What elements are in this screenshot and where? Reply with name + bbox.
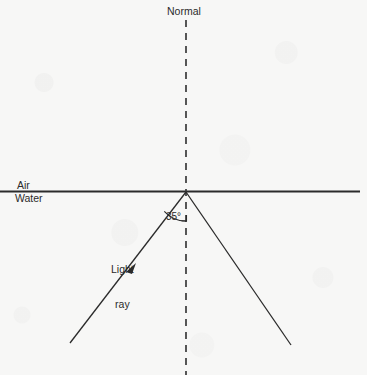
water-medium-label: Water (15, 193, 43, 205)
light-ray-label: Light ray (111, 240, 134, 334)
optics-ray-diagram: Normal Air Water 35° Light ray (0, 0, 367, 375)
normal-label: Normal (167, 6, 201, 18)
angle-of-incidence-label: 35° (166, 211, 181, 222)
reflected-ray-line (186, 192, 291, 345)
light-ray-label-line1: Light (111, 264, 134, 276)
air-medium-label: Air (17, 180, 30, 192)
light-ray-label-line2: ray (111, 299, 134, 311)
diagram-vector-layer (0, 0, 367, 375)
